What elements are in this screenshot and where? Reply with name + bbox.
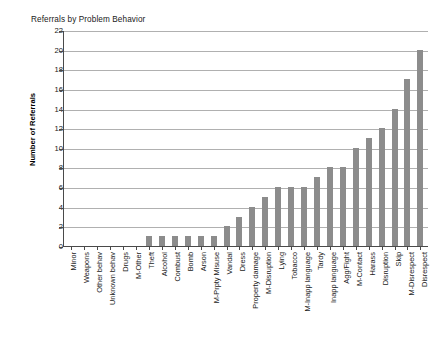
x-tick-mark [97, 246, 98, 250]
bar [211, 236, 217, 246]
bar [404, 79, 410, 246]
bar [340, 167, 346, 246]
x-tick-mark [227, 246, 228, 250]
x-label-slot: Dress [233, 252, 246, 347]
x-label-slot: Tobacco [284, 252, 297, 347]
x-tick-mark [136, 246, 137, 250]
x-label-slot: Theft [142, 252, 155, 347]
x-tick-mark [382, 246, 383, 250]
x-label-slot: Vandal [220, 252, 233, 347]
bar-slot [91, 31, 104, 246]
bar [198, 236, 204, 246]
bar [249, 207, 255, 246]
x-label-slot: M-Prpty Misuse [207, 252, 220, 347]
bar [159, 236, 165, 246]
x-label-slot: Lying [272, 252, 285, 347]
bar [379, 128, 385, 246]
bar [366, 138, 372, 246]
bar-slot [285, 31, 298, 246]
x-tick-mark [291, 246, 292, 250]
x-tick-mark [420, 246, 421, 250]
bar-slot [349, 31, 362, 246]
bar-slot [233, 31, 246, 246]
bar-slot [414, 31, 427, 246]
x-tick-mark [188, 246, 189, 250]
bar [327, 167, 333, 246]
bar-slot [220, 31, 233, 246]
x-label-slot: Unknown behav [103, 252, 116, 347]
plot-area [63, 31, 428, 247]
bar [224, 226, 230, 246]
x-label-slot: Minor [64, 252, 77, 347]
bar-series [64, 31, 428, 246]
bar [417, 50, 423, 246]
x-label-slot: Bomb [181, 252, 194, 347]
x-label-slot: M-Inapp language [297, 252, 310, 347]
bar-slot [168, 31, 181, 246]
bar-slot [323, 31, 336, 246]
x-label-slot: Agg/Fight [336, 252, 349, 347]
chart-figure: Referrals by Problem Behavior Number of … [0, 0, 439, 347]
bar-slot [401, 31, 414, 246]
x-tick-mark [407, 246, 408, 250]
x-label-slot: Other behav [90, 252, 103, 347]
bar-slot [181, 31, 194, 246]
bar-slot [246, 31, 259, 246]
bar [275, 187, 281, 246]
bar-slot [362, 31, 375, 246]
x-label-slot: Skip [388, 252, 401, 347]
x-tick-mark [201, 246, 202, 250]
x-label-slot: Arson [194, 252, 207, 347]
bar [301, 187, 307, 246]
bar-slot [117, 31, 130, 246]
x-tick-mark [330, 246, 331, 250]
x-tick-mark [252, 246, 253, 250]
x-tick-mark [304, 246, 305, 250]
bar [288, 187, 294, 246]
x-label-slot: Alcohol [155, 252, 168, 347]
bar-slot [194, 31, 207, 246]
bar-slot [155, 31, 168, 246]
x-label-slot: Property damage [246, 252, 259, 347]
bar [392, 109, 398, 246]
y-tick-mark-0 [59, 247, 63, 248]
bar [236, 217, 242, 246]
x-tick-mark [343, 246, 344, 250]
x-tick-mark [395, 246, 396, 250]
x-label-slot: Weapons [77, 252, 90, 347]
bar-slot [104, 31, 117, 246]
bar-slot [65, 31, 78, 246]
x-tick-mark [369, 246, 370, 250]
x-tick-mark [265, 246, 266, 250]
x-label-slot: Drugs [116, 252, 129, 347]
x-tick-mark [278, 246, 279, 250]
bar [185, 236, 191, 246]
x-label-slot: Harass [362, 252, 375, 347]
x-axis-tick-labels: MinorWeaponsOther behavUnknown behavDrug… [63, 252, 428, 347]
bar [146, 236, 152, 246]
bar [172, 236, 178, 246]
y-axis-tick-labels: 2220181614121086420 [0, 31, 63, 247]
x-tick-mark [214, 246, 215, 250]
x-tick-mark [239, 246, 240, 250]
bar-slot [375, 31, 388, 246]
bar-slot [272, 31, 285, 246]
x-label-slot: M-Other [129, 252, 142, 347]
x-tick-mark [123, 246, 124, 250]
bar [262, 197, 268, 246]
x-label-slot: Disruption [375, 252, 388, 347]
x-label-slot: M-Disrespect [401, 252, 414, 347]
x-label-slot: Inapp language [323, 252, 336, 347]
x-tick-mark [110, 246, 111, 250]
bar-slot [298, 31, 311, 246]
x-tick-mark [71, 246, 72, 250]
bar-slot [130, 31, 143, 246]
x-tick-label: Disrespect [421, 252, 429, 287]
bar-slot [311, 31, 324, 246]
x-label-slot: Combust [168, 252, 181, 347]
x-tick-mark [162, 246, 163, 250]
x-label-slot: Tardy [310, 252, 323, 347]
bar-slot [143, 31, 156, 246]
chart-title: Referrals by Problem Behavior [31, 15, 145, 24]
x-label-slot: Disrespect [414, 252, 427, 347]
